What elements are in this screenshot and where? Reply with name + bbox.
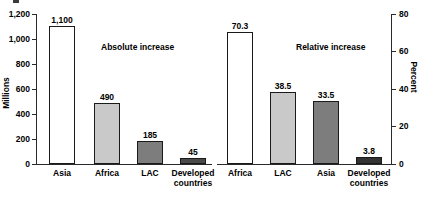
bar-asia-rel[interactable] (313, 101, 339, 164)
bar-developed-countries[interactable] (180, 158, 206, 164)
y-axis-title-millions: Millions (1, 70, 11, 116)
plot-title-absolute-increase: Absolute increase (101, 42, 174, 52)
y-tick-400 (32, 114, 36, 115)
bar-value-developed-countries-rel: 3.8 (349, 147, 389, 156)
y-axis-line-left (36, 14, 37, 165)
bar-value-asia: 1,100 (42, 16, 82, 25)
bar-value-developed-countries: 45 (173, 148, 213, 157)
y-tick-label-1000: 1,000 (0, 35, 30, 44)
bar-developed-countries-rel[interactable] (356, 157, 382, 164)
y-tick-label-0r: 0 (399, 160, 425, 169)
bar-value-asia-rel: 33.5 (306, 91, 346, 100)
y-tick-label-800: 800 (0, 60, 30, 69)
y-tick-80 (392, 14, 396, 15)
y-tick-0 (32, 164, 36, 165)
y-tick-1000 (32, 39, 36, 40)
bar-category-developed-countries-rel: Developed countries (344, 168, 394, 188)
panel-absolute-increase: 1,200 1,000 800 600 400 200 0 Millions A… (0, 0, 214, 199)
panel-relative-increase: 80 60 40 20 0 Percent Relative increase … (214, 0, 427, 199)
plot-title-relative-increase: Relative increase (296, 42, 365, 52)
bar-category-africa-rel: Africa (218, 168, 262, 178)
bar-africa-rel[interactable] (227, 32, 253, 164)
bar-value-africa: 490 (87, 93, 127, 102)
x-axis-line-left (36, 164, 212, 165)
bar-value-lac: 185 (130, 131, 170, 140)
y-tick-1200 (32, 14, 36, 15)
bar-category-asia-rel: Asia (304, 168, 348, 178)
y-axis-title-percent: Percent (409, 56, 419, 98)
bar-value-africa-rel: 70.3 (220, 22, 260, 31)
y-tick-20 (392, 126, 396, 127)
y-tick-label-1200: 1,200 (0, 10, 30, 19)
y-tick-200 (32, 139, 36, 140)
y-tick-800 (32, 64, 36, 65)
bar-asia[interactable] (49, 26, 75, 164)
x-axis-line-right (217, 164, 392, 165)
bar-value-lac-rel: 38.5 (263, 82, 303, 91)
bar-category-asia: Asia (42, 168, 82, 178)
bar-category-lac: LAC (128, 168, 172, 178)
y-tick-label-80: 80 (399, 10, 425, 19)
y-tick-label-0: 0 (0, 160, 30, 169)
bar-category-africa: Africa (85, 168, 129, 178)
y-tick-label-200: 200 (0, 135, 30, 144)
y-tick-60 (392, 51, 396, 52)
bar-lac-rel[interactable] (270, 92, 296, 164)
bar-lac[interactable] (137, 141, 163, 164)
y-tick-40 (392, 89, 396, 90)
y-tick-0r (392, 164, 396, 165)
bar-category-developed-countries: Developed countries (168, 168, 218, 188)
y-tick-label-20: 20 (399, 122, 425, 131)
y-tick-600 (32, 89, 36, 90)
y-tick-label-60: 60 (399, 47, 425, 56)
figure-bar-charts: 1,200 1,000 800 600 400 200 0 Millions A… (0, 0, 427, 199)
bar-category-lac-rel: LAC (261, 168, 305, 178)
bar-africa[interactable] (94, 103, 120, 164)
